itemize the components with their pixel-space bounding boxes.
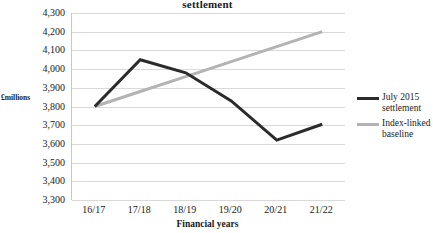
series-line [95, 32, 323, 107]
line-chart: settlement £millions 4,3004,2004,1004,00… [0, 0, 433, 233]
y-axis-tick-label: 3,600 [9, 139, 65, 149]
legend-item[interactable]: July 2015 settlement [357, 92, 433, 114]
y-axis-tick-label: 4,100 [9, 45, 65, 55]
series-line [95, 60, 323, 140]
y-axis-tick-label: 3,400 [9, 176, 65, 186]
y-axis-tick-label: 3,800 [9, 102, 65, 112]
chart-title: settlement [71, 0, 344, 11]
legend-label: July 2015 settlement [382, 92, 433, 114]
x-axis-tick-label: 19/20 [205, 204, 255, 215]
y-axis-tick-label: 3,300 [9, 195, 65, 205]
x-axis-title: Financial years [71, 219, 344, 230]
y-axis-tick-label: 4,300 [9, 8, 65, 18]
gridline [72, 200, 345, 201]
legend-swatch-icon [357, 123, 379, 126]
series-lines [72, 13, 345, 200]
y-axis-tick-label: 4,000 [9, 64, 65, 74]
y-axis-tick-label: 4,200 [9, 27, 65, 37]
y-axis-tick-label: 3,500 [9, 158, 65, 168]
legend-swatch-icon [357, 97, 379, 100]
y-axis-tick-label: 3,900 [9, 83, 65, 93]
y-axis-tick-label: 3,700 [9, 120, 65, 130]
x-axis-tick-label: 20/21 [251, 204, 301, 215]
x-axis-tick-label: 17/18 [114, 204, 164, 215]
legend-label: Index-linked baseline [382, 118, 433, 140]
x-axis-tick-label: 16/17 [69, 204, 119, 215]
chart-legend: July 2015 settlementIndex-linked baselin… [357, 92, 433, 144]
x-axis-tick-label: 18/19 [160, 204, 210, 215]
legend-item[interactable]: Index-linked baseline [357, 118, 433, 140]
y-axis-tick-labels: 4,3004,2004,1004,0003,9003,8003,7003,600… [7, 0, 65, 200]
plot-area [71, 13, 344, 200]
x-axis-tick-label: 21/22 [296, 204, 346, 215]
